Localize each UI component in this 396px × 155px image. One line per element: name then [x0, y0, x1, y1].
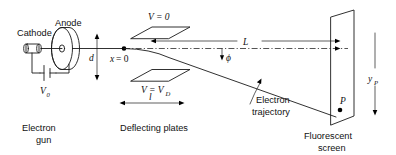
electron-gun-label-line2: gun [36, 135, 51, 145]
svg-text:L: L [242, 37, 248, 47]
crt-deflection-diagram: Cathode Anode V 0 Electron gun d x = 0 [0, 0, 396, 155]
svg-text:P: P [373, 79, 378, 86]
origin-label: x = 0 [109, 54, 129, 64]
svg-text:V = V: V = V [141, 85, 165, 95]
screen-label-line1: Fluorescent [304, 131, 352, 141]
drift-length-dimension-L: L [151, 37, 341, 47]
cathode-label: Cathode [17, 28, 52, 38]
svg-text:= 0: = 0 [116, 54, 129, 64]
svg-text:0: 0 [47, 91, 51, 98]
svg-text:x: x [109, 54, 115, 64]
cathode-icon [24, 44, 42, 53]
svg-text:l: l [149, 92, 152, 102]
trajectory-callout: Electron trajectory [250, 79, 290, 118]
electron-gun-group: Cathode Anode V 0 Electron gun [17, 18, 82, 145]
svg-text:d: d [89, 53, 94, 63]
trajectory-label-line2: trajectory [252, 107, 290, 117]
bottom-plate [131, 70, 190, 82]
top-plate-voltage-label: V = 0 [148, 12, 170, 22]
screen-label-line2: screen [318, 143, 346, 153]
impact-point-marker: P [338, 96, 346, 112]
diagram-canvas: Cathode Anode V 0 Electron gun d x = 0 [0, 0, 396, 155]
svg-text:ϕ: ϕ [226, 53, 231, 63]
fluorescent-screen-group: P Fluorescent screen [304, 10, 354, 153]
accelerating-voltage-circuit [32, 53, 69, 81]
electron-gun-label-line1: Electron [22, 123, 56, 133]
svg-text:P: P [339, 96, 346, 106]
svg-text:V = 0: V = 0 [148, 12, 170, 22]
deflecting-plates-group: V = 0 V = V D l Deflecting plates [120, 12, 191, 133]
trajectory-label-line1: Electron [256, 95, 290, 105]
anode-label: Anode [55, 18, 82, 28]
svg-text:D: D [165, 90, 171, 97]
bottom-plate-voltage-label: V = V D [141, 85, 171, 97]
deflecting-plates-label: Deflecting plates [120, 123, 188, 133]
deflection-dimension-yp: y P [367, 33, 378, 116]
screen-plane [331, 10, 354, 125]
source-voltage-label: V 0 [40, 86, 51, 98]
top-plate [131, 27, 190, 39]
gap-dimension-d: d [89, 34, 99, 81]
centerline-arrowhead [335, 46, 341, 51]
svg-text:y: y [367, 74, 373, 84]
deflection-angle-phi: ϕ [220, 49, 231, 63]
